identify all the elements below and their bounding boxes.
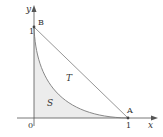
y-tick-one: 1 [29,27,34,36]
point-a [127,117,130,120]
x-tick-one: 1 [126,121,131,130]
diagram: y x B A 1 1 0 T S [0,0,163,137]
y-axis-arrow-icon [32,5,37,12]
point-a-label: A [126,106,133,115]
region-t-label: T [66,73,73,83]
y-axis-label: y [25,4,32,14]
point-b-label: B [38,18,44,27]
x-axis-label: x [148,120,153,130]
origin-label: 0 [28,121,33,130]
region-s-label: S [47,98,53,108]
